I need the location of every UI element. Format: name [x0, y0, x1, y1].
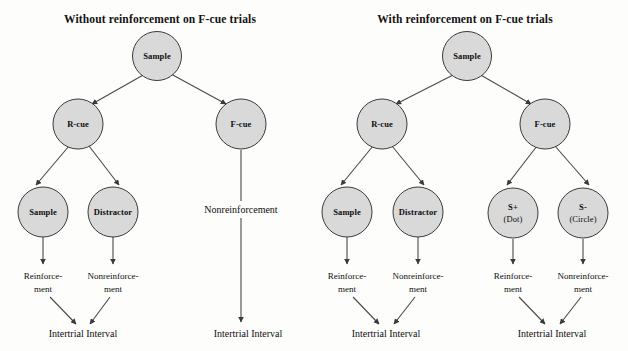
node-distractor-leaf-right: Distractor — [393, 187, 443, 237]
node-f-cue-left: F-cue — [216, 99, 266, 149]
node-label: Distractor — [399, 207, 437, 217]
panel-right: With reinforcement on F-cue trials — [322, 13, 608, 339]
terminal-intertrial-interval-left-f: Intertrial Interval — [214, 328, 283, 339]
node-sample-root-right: Sample — [443, 32, 492, 81]
node-label: Sample — [29, 207, 57, 217]
node-label: Distractor — [94, 207, 132, 217]
edge-nonreinforcement-to-iti-left-2 — [90, 297, 110, 324]
node-label: Sample — [143, 51, 171, 61]
terminal-intertrial-interval-left-r: Intertrial Interval — [49, 328, 118, 339]
panel-left-title: Without reinforcement on F-cue trials — [64, 13, 256, 25]
node-sample-leaf-right: Sample — [322, 187, 372, 237]
edge-nonreinforcement-to-iti-right-f — [560, 297, 581, 324]
terminal-intertrial-interval-right-f: Intertrial Interval — [518, 328, 587, 339]
node-label-line-1: S- — [579, 202, 587, 212]
tree-diagram: Without reinforcement on F-cue trials Sa… — [0, 0, 628, 351]
outcome-reinforcement-right-r: Reinforce- ment — [328, 271, 366, 294]
edge-rcue-to-distractor-right — [392, 146, 424, 185]
node-distractor-leaf-left: Distractor — [88, 187, 138, 237]
outcome-line-2: ment — [574, 284, 592, 294]
outcome-line-2: ment — [409, 284, 427, 294]
node-label: Sample — [333, 207, 361, 217]
node-label: R-cue — [371, 119, 393, 129]
outcome-line-1: Reinforce- — [494, 271, 532, 281]
node-label: R-cue — [67, 119, 89, 129]
panel-left: Without reinforcement on F-cue trials Sa… — [18, 13, 283, 339]
edge-nonreinforcement-to-iti-right-r — [394, 297, 415, 324]
node-s-minus-right: S- (Circle) — [558, 188, 608, 238]
node-sample-leaf-left: Sample — [18, 187, 68, 237]
outcome-line-1: Nonreinforce- — [393, 271, 444, 281]
node-circle — [488, 188, 538, 238]
edge-rcue-to-distractor-left — [89, 146, 119, 185]
node-label: F-cue — [231, 119, 252, 129]
outcome-reinforcement-right-f: Reinforce- ment — [494, 271, 532, 294]
outcome-reinforcement-left: Reinforce- ment — [24, 271, 62, 294]
outcome-nonreinforcement-right-f: Nonreinforce- ment — [558, 271, 609, 294]
edge-rcue-to-sample-left — [36, 146, 69, 185]
node-label: F-cue — [535, 119, 556, 129]
outcome-line-1: Nonreinforce- — [558, 271, 609, 281]
outcome-line-2: ment — [504, 284, 522, 294]
outcome-line-2: ment — [338, 284, 356, 294]
panel-right-title: With reinforcement on F-cue trials — [377, 13, 553, 25]
node-s-plus-right: S+ (Dot) — [488, 188, 538, 238]
node-circle — [558, 188, 608, 238]
edge-reinforcement-to-iti-right-f — [519, 297, 545, 324]
node-f-cue-right: F-cue — [520, 99, 570, 149]
edge-reinforcement-to-iti-left — [50, 297, 76, 324]
edge-reinforcement-to-iti-right-r — [353, 297, 379, 324]
edge-root-to-rcue-left — [92, 74, 145, 104]
node-label-line-1: S+ — [508, 202, 518, 212]
outcome-line-2: ment — [104, 284, 122, 294]
node-sample-root-left: Sample — [133, 32, 182, 81]
figure-canvas: Without reinforcement on F-cue trials Sa… — [0, 0, 628, 351]
edge-fcue-to-sminus-right — [555, 146, 589, 185]
outcome-line-1: Nonreinforce- — [88, 271, 139, 281]
edge-root-to-rcue-right — [396, 74, 455, 104]
node-label: Sample — [453, 51, 481, 61]
outcome-line-1: Reinforce- — [328, 271, 366, 281]
outcome-nonreinforcement-left: Nonreinforce- ment — [88, 271, 139, 294]
edge-root-to-fcue-right — [479, 74, 531, 104]
edge-rcue-to-sample-right — [341, 146, 373, 185]
edge-fcue-to-splus-right — [507, 146, 537, 185]
edge-root-to-fcue-left — [171, 74, 226, 104]
outcome-fcue-nonreinforcement-left: Nonreinforcement — [204, 204, 278, 215]
node-label-line-2: (Circle) — [569, 214, 596, 224]
node-label-line-2: (Dot) — [504, 214, 523, 224]
node-r-cue-left: R-cue — [53, 99, 103, 149]
outcome-line-1: Reinforce- — [24, 271, 62, 281]
outcome-line-2: ment — [34, 284, 52, 294]
terminal-intertrial-interval-right-r: Intertrial Interval — [352, 328, 421, 339]
outcome-nonreinforcement-right-r: Nonreinforce- ment — [393, 271, 444, 294]
node-r-cue-right: R-cue — [357, 99, 407, 149]
